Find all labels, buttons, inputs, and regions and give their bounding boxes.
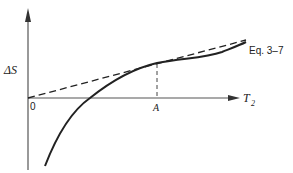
curve-label: Eq. 3–7 xyxy=(249,45,284,56)
x-axis-arrow-icon xyxy=(228,95,240,101)
x-axis-subscript: 2 xyxy=(251,99,255,108)
point-a-label: A xyxy=(152,102,160,113)
y-axis-label: ΔS xyxy=(3,63,17,77)
entropy-diagram: ΔS 0 A T 2 Eq. 3–7 xyxy=(0,0,293,173)
entropy-curve xyxy=(45,42,246,166)
origin-label: 0 xyxy=(30,101,36,112)
x-axis-label: T xyxy=(243,91,251,105)
y-axis-arrow-icon xyxy=(25,8,31,22)
